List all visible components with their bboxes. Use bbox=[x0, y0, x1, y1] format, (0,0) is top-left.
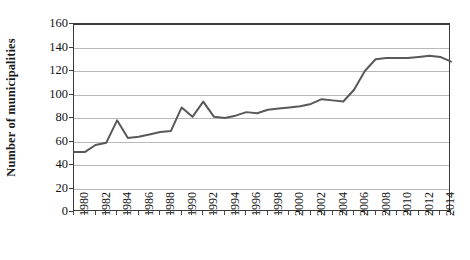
x-axis-tick-mark bbox=[342, 211, 343, 215]
x-axis-tick-mark bbox=[202, 211, 203, 215]
y-axis-tick-label: 40 bbox=[26, 158, 68, 171]
y-axis-tick-label: 100 bbox=[26, 88, 68, 101]
x-axis-tick-mark bbox=[245, 211, 246, 215]
plot-area bbox=[73, 23, 450, 211]
x-axis-tick-mark bbox=[73, 211, 74, 215]
x-axis-tick-mark bbox=[353, 211, 354, 215]
x-axis-tick-mark bbox=[418, 211, 419, 215]
x-axis-tick-mark bbox=[288, 211, 289, 215]
x-axis-tick-mark bbox=[127, 211, 128, 215]
x-axis-tick-mark bbox=[450, 211, 451, 215]
x-axis-tick-mark bbox=[170, 211, 171, 215]
x-axis-tick-mark bbox=[105, 211, 106, 215]
x-axis-tick-mark bbox=[364, 211, 365, 215]
x-axis-tick-mark bbox=[385, 211, 386, 215]
y-axis-title-text: Number of municipalities bbox=[4, 38, 19, 176]
x-axis-tick-mark bbox=[116, 211, 117, 215]
y-axis-tick-label: 60 bbox=[26, 135, 68, 148]
chart-figure: Number of municipalities 020406080100120… bbox=[0, 0, 470, 260]
x-axis-tick-mark bbox=[278, 211, 279, 215]
y-axis-tick-label: 20 bbox=[26, 182, 68, 195]
x-axis-tick-mark bbox=[407, 211, 408, 215]
y-axis-tick-label: 140 bbox=[26, 41, 68, 54]
y-axis-title: Number of municipalities bbox=[2, 0, 20, 215]
series-polyline bbox=[74, 56, 451, 152]
x-axis-tick-mark bbox=[181, 211, 182, 215]
x-axis-tick-mark bbox=[428, 211, 429, 215]
y-axis-tick-label: 80 bbox=[26, 111, 68, 124]
data-series-line bbox=[74, 24, 451, 212]
y-axis-line bbox=[73, 23, 74, 211]
y-axis-tick-label: 0 bbox=[26, 205, 68, 218]
x-axis-tick-mark bbox=[310, 211, 311, 215]
x-axis-tick-mark bbox=[148, 211, 149, 215]
x-axis-tick-mark bbox=[95, 211, 96, 215]
x-axis-tick-mark bbox=[332, 211, 333, 215]
y-axis-tick-label: 120 bbox=[26, 64, 68, 77]
x-axis-tick-mark bbox=[299, 211, 300, 215]
x-axis-tick-mark bbox=[267, 211, 268, 215]
x-axis-tick-mark bbox=[256, 211, 257, 215]
x-axis-tick-mark bbox=[84, 211, 85, 215]
x-axis-tick-mark bbox=[138, 211, 139, 215]
x-axis-tick-mark bbox=[321, 211, 322, 215]
x-axis-tick-mark bbox=[191, 211, 192, 215]
x-axis-tick-mark bbox=[159, 211, 160, 215]
y-axis-tick-label: 160 bbox=[26, 17, 68, 30]
x-axis-tick-mark bbox=[235, 211, 236, 215]
x-axis-tick-mark bbox=[396, 211, 397, 215]
x-axis-tick-mark bbox=[213, 211, 214, 215]
x-axis-tick-mark bbox=[224, 211, 225, 215]
x-axis-tick-mark bbox=[375, 211, 376, 215]
x-axis-tick-mark bbox=[439, 211, 440, 215]
